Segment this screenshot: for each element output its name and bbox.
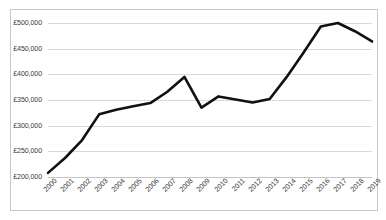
- x-axis-tick-label: 2011: [230, 177, 246, 193]
- x-axis-tick-label: 2010: [213, 177, 230, 194]
- y-axis-tick-label: £200,000: [0, 173, 42, 181]
- x-axis-tick-label: 2000: [42, 177, 59, 194]
- series-polyline: [48, 23, 372, 173]
- y-axis-tick-label: £450,000: [0, 45, 42, 53]
- y-axis-tick-label: £400,000: [0, 70, 42, 78]
- y-axis-tick-label: £500,000: [0, 19, 42, 27]
- x-axis-tick-label: 2003: [93, 177, 110, 194]
- y-axis-tick-label: £250,000: [0, 147, 42, 155]
- x-axis-tick-label: 2007: [161, 177, 178, 194]
- x-axis-tick-label: 2015: [298, 177, 315, 194]
- line-series: [48, 23, 372, 177]
- x-axis-tick-label: 2004: [110, 177, 127, 194]
- x-axis-tick-label: 2016: [315, 177, 332, 194]
- plot-area: £200,000£250,000£300,000£350,000£400,000…: [48, 23, 372, 177]
- x-axis-tick-label: 2006: [144, 177, 161, 194]
- chart-frame: £200,000£250,000£300,000£350,000£400,000…: [10, 9, 378, 211]
- x-axis-tick-label: 2014: [281, 177, 298, 194]
- x-axis-tick-label: 2019: [366, 177, 383, 194]
- x-axis-tick-label: 2018: [349, 177, 366, 194]
- y-axis-tick-label: £350,000: [0, 96, 42, 104]
- x-axis-tick-label: 2002: [76, 177, 93, 194]
- x-axis-tick-label: 2005: [127, 177, 144, 194]
- x-axis-tick-label: 2012: [247, 177, 264, 194]
- x-axis-tick-label: 2017: [332, 177, 349, 194]
- x-axis-tick-label: 2008: [179, 177, 196, 194]
- x-axis-tick-label: 2001: [59, 177, 76, 194]
- x-axis-tick-label: 2013: [264, 177, 281, 194]
- x-axis-tick-label: 2009: [196, 177, 213, 194]
- y-axis: £200,000£250,000£300,000£350,000£400,000…: [0, 23, 42, 177]
- x-axis: 2000200120022003200420052006200720082009…: [48, 177, 372, 211]
- y-axis-tick-label: £300,000: [0, 122, 42, 130]
